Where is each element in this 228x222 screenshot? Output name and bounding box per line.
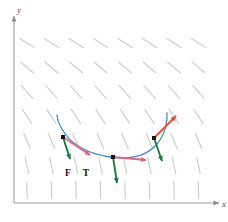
force-vector-label: F: [65, 168, 71, 178]
field-vector-segment: [51, 182, 52, 199]
field-vector-segment: [24, 133, 31, 149]
field-vector-segment: [48, 133, 55, 149]
y-axis-label: y: [16, 5, 21, 15]
field-vector-segment: [93, 39, 107, 48]
field-vector-segment: [99, 157, 103, 174]
field-vector-segment: [20, 62, 33, 73]
field-vector-segment: [69, 62, 82, 73]
field-vector-segment: [168, 86, 179, 99]
x-axis-label: x: [221, 199, 226, 209]
field-vector-segment: [198, 182, 199, 199]
field-vector-segment: [74, 157, 78, 174]
field-vector-segment: [145, 109, 154, 123]
field-vector-segment: [25, 157, 29, 174]
field-vector-segment: [50, 157, 54, 174]
field-vector-segment: [118, 62, 131, 73]
field-vector-segment: [97, 133, 104, 149]
field-vector-segment: [125, 182, 126, 199]
field-vector-segment: [142, 39, 156, 48]
field-vector-segment: [94, 62, 107, 73]
field-vector-segment: [193, 86, 204, 99]
field-vector-segment: [194, 109, 203, 123]
field-vector-segment: [100, 182, 101, 199]
field-vector-segment: [119, 86, 130, 99]
field-vector-segment: [167, 39, 181, 48]
field-vector-segment: [44, 39, 58, 48]
field-vector-segment: [118, 39, 132, 48]
axes-group: y x: [14, 5, 226, 209]
field-vector-segment: [149, 182, 150, 199]
field-vector-segment: [71, 109, 80, 123]
field-vector-segment: [96, 109, 105, 123]
field-vector-segment: [143, 62, 156, 73]
vectors-and-points: [61, 116, 176, 183]
field-vector-segment: [45, 62, 58, 73]
field-vector-segment: [148, 157, 152, 174]
field-vector-segment: [144, 86, 155, 99]
field-vector-segment: [120, 109, 129, 123]
field-vector-segment: [46, 86, 57, 99]
curve-point-marker: [61, 135, 65, 139]
force-vector-arrow: [154, 138, 162, 161]
field-vector-segment: [171, 133, 178, 149]
field-vector-segment: [195, 133, 202, 149]
field-vector-segment: [47, 109, 56, 123]
field-vector-segment: [174, 182, 175, 199]
curve-point-marker: [152, 136, 156, 140]
field-vector-segment: [21, 86, 32, 99]
field-vector-segment: [69, 39, 83, 48]
field-vector-segment: [76, 182, 77, 199]
field-vector-segment: [172, 157, 176, 174]
field-vector-segment: [191, 39, 205, 48]
field-vector-segment: [22, 109, 31, 123]
tangent-vector-label: T: [83, 168, 90, 178]
field-vector-segment: [27, 182, 28, 199]
field-vector-segment: [146, 133, 153, 149]
field-vector-segment: [122, 133, 129, 149]
field-vector-segment: [197, 157, 201, 174]
figure-container: y x F T: [0, 0, 228, 222]
tangent-vector-arrow: [154, 116, 176, 138]
field-vector-segment: [20, 39, 34, 48]
field-vector-segment: [95, 86, 106, 99]
curve-point-marker: [111, 155, 115, 159]
field-vector-segment: [167, 62, 180, 73]
vector-field: [20, 39, 206, 199]
vector-field-diagram: y x F T: [0, 0, 228, 222]
field-vector-segment: [70, 86, 81, 99]
force-vector-arrow: [113, 157, 117, 183]
field-vector-segment: [192, 62, 205, 73]
field-vector-segment: [123, 157, 127, 174]
